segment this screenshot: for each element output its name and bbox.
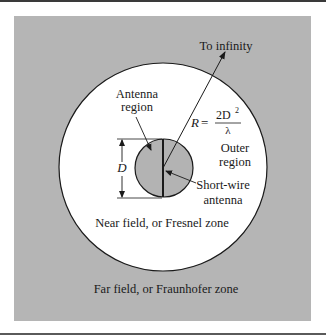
formula-numerator: 2D	[216, 108, 231, 122]
antenna-region-label-2: region	[121, 100, 154, 114]
short-wire-label-2: antenna	[204, 193, 243, 207]
short-wire-label-1: Short-wire	[196, 178, 250, 192]
antenna-region-label-1: Antenna	[116, 87, 159, 101]
formula-exponent: 2	[235, 106, 239, 115]
far-field-label: Far field, or Fraunhofer zone	[94, 282, 239, 296]
outer-region-label-1: Outer	[221, 141, 250, 155]
antenna-field-regions-diagram: To infinity Antenna region R = 2D 2 λ Ou…	[0, 0, 326, 336]
formula-denominator: λ	[225, 124, 231, 136]
outer-region-label-2: region	[219, 155, 252, 169]
radius-symbol: R	[190, 115, 199, 130]
dimension-label-d: D	[116, 160, 127, 175]
bottom-rule	[0, 333, 326, 335]
near-field-label: Near field, or Fresnel zone	[95, 216, 229, 230]
equals-sign: =	[201, 115, 208, 130]
to-infinity-label: To infinity	[200, 39, 254, 53]
